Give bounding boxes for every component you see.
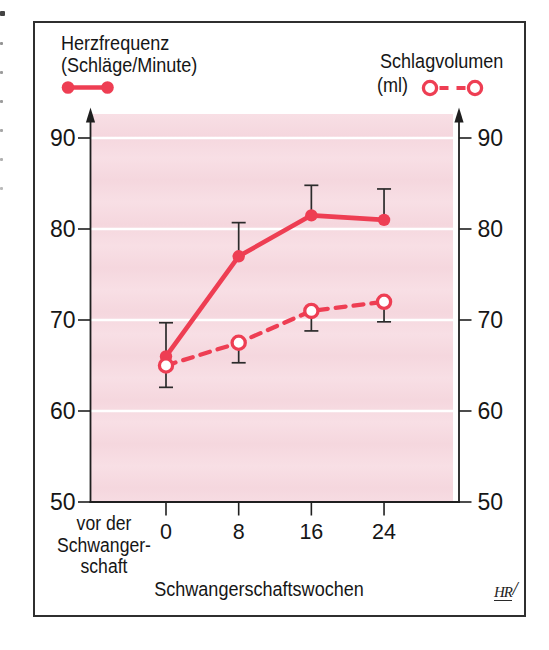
pre-pregnancy-line2: Schwanger- bbox=[53, 535, 155, 557]
publisher-logo-text: HR bbox=[494, 584, 512, 601]
legend-heart-rate-line2: (Schläge/Minute) bbox=[61, 54, 197, 76]
page-edge-speck bbox=[0, 100, 3, 103]
legend-heart-rate-line1: Herzfrequenz bbox=[61, 32, 197, 54]
page-edge-speck bbox=[0, 158, 3, 161]
legend-heart-rate: Herzfrequenz (Schläge/Minute) bbox=[61, 32, 197, 76]
pre-pregnancy-label: vor der Schwanger- schaft bbox=[53, 513, 155, 578]
page-edge-speck bbox=[0, 42, 3, 45]
page-edge-speck bbox=[0, 11, 5, 16]
page-edge-speck bbox=[0, 187, 3, 190]
pre-pregnancy-line1: vor der bbox=[53, 513, 155, 535]
page-edge-speck bbox=[0, 129, 3, 132]
page-edge-speck bbox=[0, 71, 3, 74]
pre-pregnancy-line3: schaft bbox=[53, 556, 155, 578]
legend-stroke-volume-title: Schlagvolumen bbox=[380, 50, 503, 72]
publisher-logo: HR/ bbox=[494, 580, 518, 602]
legend-stroke-volume-unit: (ml) bbox=[377, 74, 408, 96]
plot-area bbox=[91, 114, 453, 502]
x-axis-label: Schwangerschaftswochen bbox=[154, 577, 348, 601]
publisher-logo-slash: / bbox=[513, 578, 518, 599]
figure-page: { "figure": { "legend_heart_rate": {"lin… bbox=[0, 0, 549, 650]
